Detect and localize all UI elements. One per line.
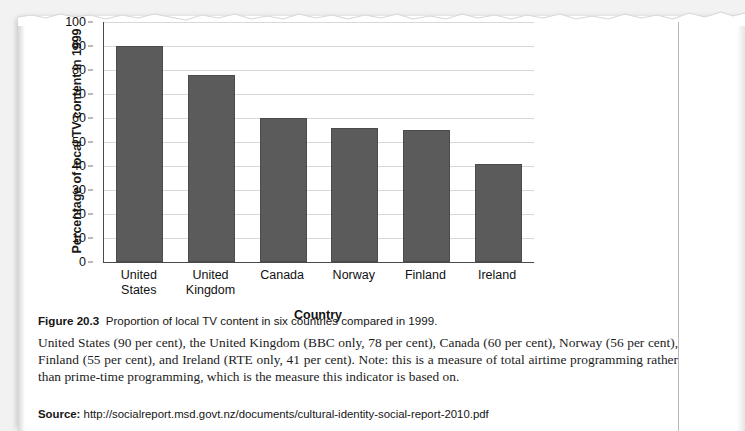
y-axis-tick-label: 100 bbox=[65, 15, 86, 29]
x-axis-label-finland: Finland bbox=[390, 268, 462, 298]
bar-slot bbox=[247, 22, 319, 262]
x-axis-label-line: United bbox=[175, 268, 247, 283]
x-axis-category-labels: UnitedStatesUnitedKingdomCanadaNorwayFin… bbox=[103, 268, 533, 298]
page-margin-rule bbox=[678, 22, 679, 431]
y-axis-tick-label: 40 bbox=[72, 159, 86, 173]
figure-caption: Figure 20.3 Proportion of local TV conte… bbox=[38, 313, 668, 328]
x-axis-label-line: Norway bbox=[318, 268, 390, 283]
figure-body-paragraph: United States (90 per cent), the United … bbox=[38, 334, 678, 386]
y-axis-tick-mark bbox=[88, 214, 93, 215]
bar-slot bbox=[319, 22, 391, 262]
y-axis-tick-mark bbox=[88, 262, 93, 263]
bar-united-states[interactable] bbox=[116, 46, 163, 262]
y-axis-tick-label: 0 bbox=[79, 255, 86, 269]
source-line: Source: http://socialreport.msd.govt.nz/… bbox=[38, 407, 678, 421]
bar-slot bbox=[176, 22, 248, 262]
y-axis-tick-label: 20 bbox=[72, 207, 86, 221]
y-axis-tick-label: 10 bbox=[72, 231, 86, 245]
bar-norway[interactable] bbox=[331, 128, 378, 262]
y-axis-tick-mark bbox=[88, 94, 93, 95]
y-axis-tick-mark bbox=[88, 238, 93, 239]
y-axis-tick-mark bbox=[88, 142, 93, 143]
figure-caption-text: Proportion of local TV content in six co… bbox=[106, 314, 438, 327]
bar-slot bbox=[391, 22, 463, 262]
scanned-page-figure: Percentage of local TV content in 1999 1… bbox=[0, 0, 745, 431]
bar-chart: Percentage of local TV content in 1999 1… bbox=[34, 22, 554, 307]
x-axis-label-canada: Canada bbox=[246, 268, 318, 298]
y-axis-tick-label: 60 bbox=[72, 111, 86, 125]
y-axis-ticks: 1009080706050403020100 bbox=[34, 22, 96, 267]
y-axis-tick-mark bbox=[88, 70, 93, 71]
x-axis-label-line: Finland bbox=[390, 268, 462, 283]
y-axis-tick-mark bbox=[88, 166, 93, 167]
plot-area bbox=[103, 22, 534, 263]
x-axis-label-united-kingdom: UnitedKingdom bbox=[175, 268, 247, 298]
bar-ireland[interactable] bbox=[475, 164, 522, 262]
y-axis-tick-label: 70 bbox=[72, 87, 86, 101]
bar-finland[interactable] bbox=[403, 130, 450, 262]
y-axis-tick-label: 50 bbox=[72, 135, 86, 149]
x-axis-label-norway: Norway bbox=[318, 268, 390, 298]
bar-united-kingdom[interactable] bbox=[188, 75, 235, 262]
y-axis-tick-label: 90 bbox=[72, 39, 86, 53]
bar-series bbox=[104, 22, 534, 262]
y-axis-tick-mark bbox=[88, 118, 93, 119]
y-axis-tick-mark bbox=[88, 46, 93, 47]
x-axis-label-line: Kingdom bbox=[175, 283, 247, 298]
x-axis-label-line: United bbox=[103, 268, 175, 283]
bar-slot bbox=[462, 22, 534, 262]
source-url[interactable]: http://socialreport.msd.govt.nz/document… bbox=[84, 408, 489, 420]
figure-number: Figure 20.3 bbox=[38, 314, 99, 327]
bar-slot bbox=[104, 22, 176, 262]
x-axis-label-line: Ireland bbox=[461, 268, 533, 283]
x-axis-label-ireland: Ireland bbox=[461, 268, 533, 298]
y-axis-tick-mark bbox=[88, 22, 93, 23]
bar-canada[interactable] bbox=[260, 118, 307, 262]
source-label: Source: bbox=[38, 408, 80, 420]
x-axis-label-line: States bbox=[103, 283, 175, 298]
y-axis-tick-mark bbox=[88, 190, 93, 191]
x-axis-label-line: Canada bbox=[246, 268, 318, 283]
x-axis-label-united-states: UnitedStates bbox=[103, 268, 175, 298]
y-axis-tick-label: 80 bbox=[72, 63, 86, 77]
y-axis-tick-label: 30 bbox=[72, 183, 86, 197]
